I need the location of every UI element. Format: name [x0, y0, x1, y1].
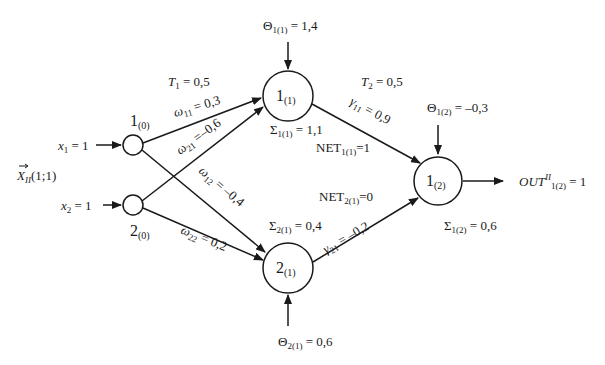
node-input-2-label: 2(0) [130, 222, 150, 242]
sum-out-label: Σ1(2) = 0,6 [444, 218, 497, 235]
bias-h2-label: Θ2(1) = 0,6 [278, 334, 333, 351]
node-input-1 [123, 135, 143, 155]
sum-h2-label: Σ2(1) = 0,4 [269, 218, 322, 235]
svg-text:XII(1;1): XII(1;1) [16, 168, 56, 185]
input-vector-label: XII(1;1) [16, 164, 56, 185]
output-label: OUTII1(2) = 1 [519, 172, 586, 191]
threshold-t2-label: T2 = 0,5 [361, 74, 403, 91]
input-x2-label: x2 = 1 [60, 198, 92, 215]
bias-h1-label: Θ1(1) = 1,4 [263, 18, 318, 35]
weight-g11-label: γ11 = 0,9 [347, 93, 394, 129]
input-x1-label: x1 = 1 [57, 138, 89, 155]
node-input-2 [123, 195, 143, 215]
bias-out-label: Θ1(2) = –0,3 [427, 100, 488, 117]
weight-g21-label: γ21 = –0,2 [320, 218, 372, 258]
neural-network-diagram: 1(0) 2(0) 1(1) 2(1) 1(2) x1 = 1 x2 = 1 X… [0, 0, 605, 365]
weight-w12-label: ω12 = –0,4 [195, 163, 248, 212]
node-input-1-label: 1(0) [130, 112, 150, 132]
threshold-t1-label: T1 = 0,5 [168, 74, 210, 91]
sum-h1-label: Σ1(1) = 1,1 [270, 122, 323, 139]
weight-w22-label: ω22 = 0,2 [178, 222, 229, 256]
net-h1-label: NET1(1)=1 [316, 140, 370, 157]
net-h2-label: NET2(1)=0 [319, 189, 373, 206]
